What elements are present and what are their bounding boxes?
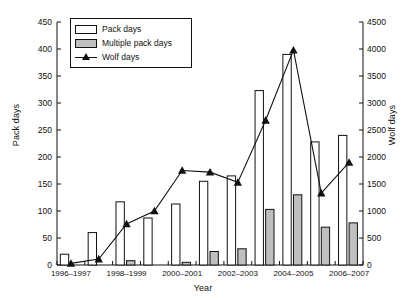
bar-pack-days xyxy=(227,176,235,265)
x-axis-tick-label: 2000–2001 xyxy=(153,269,211,278)
bar-pack-days xyxy=(199,181,207,265)
plot-area xyxy=(0,0,406,300)
bar-multiple-pack-days xyxy=(266,209,274,265)
y-axis-right-tick-label: 1000 xyxy=(367,206,397,216)
x-axis-tick-label: 2004–2005 xyxy=(264,269,322,278)
y-axis-right-tick-label: 0 xyxy=(367,260,397,270)
y-axis-right-tick-label: 3500 xyxy=(367,71,397,81)
y-axis-right-tick-label: 2000 xyxy=(367,152,397,162)
marker-wolf-days xyxy=(178,166,186,174)
legend-item-multiple-pack-days: Multiple pack days xyxy=(75,36,187,50)
bar-multiple-pack-days xyxy=(238,249,246,265)
bar-multiple-pack-days xyxy=(321,227,329,265)
y-axis-right-tick-label: 2500 xyxy=(367,125,397,135)
y-axis-left-tick-label: 100 xyxy=(24,206,52,216)
y-axis-left-tick-label: 250 xyxy=(24,125,52,135)
bar-multiple-pack-days xyxy=(293,195,301,265)
chart-figure: Pack days Wolf days Year Pack days Multi… xyxy=(0,0,406,300)
y-axis-right-tick-label: 4000 xyxy=(367,44,397,54)
y-axis-left-tick-label: 300 xyxy=(24,98,52,108)
bar-multiple-pack-days xyxy=(210,252,218,266)
x-axis-tick-label: 1998–1999 xyxy=(98,269,156,278)
x-axis-tick-label: 1996–1997 xyxy=(42,269,100,278)
bar-pack-days xyxy=(116,202,124,265)
y-axis-left-tick-label: 150 xyxy=(24,179,52,189)
bar-pack-days xyxy=(283,54,291,265)
bar-pack-days xyxy=(144,218,152,265)
bar-pack-days xyxy=(60,254,68,265)
line-triangle-marker-icon xyxy=(75,53,97,62)
marker-wolf-days xyxy=(150,207,158,215)
x-axis-tick-label: 2002–2003 xyxy=(209,269,267,278)
legend-label: Wolf days xyxy=(102,52,139,62)
bar-multiple-pack-days xyxy=(127,261,135,265)
bar-pack-days xyxy=(172,204,180,265)
marker-wolf-days xyxy=(289,46,297,54)
white-swatch-icon xyxy=(75,25,97,34)
legend-label: Pack days xyxy=(102,24,141,34)
chart-legend: Pack days Multiple pack days Wolf days xyxy=(70,18,192,68)
legend-item-pack-days: Pack days xyxy=(75,22,187,36)
y-axis-left-tick-label: 400 xyxy=(24,44,52,54)
bar-pack-days xyxy=(255,91,263,265)
legend-label: Multiple pack days xyxy=(102,38,172,48)
line-wolf-days xyxy=(71,50,349,263)
y-axis-left-tick-label: 350 xyxy=(24,71,52,81)
y-axis-left-tick-label: 50 xyxy=(24,233,52,243)
bar-pack-days xyxy=(339,135,347,265)
y-axis-left-tick-label: 200 xyxy=(24,152,52,162)
y-axis-left-tick-label: 0 xyxy=(24,260,52,270)
legend-item-wolf-days: Wolf days xyxy=(75,50,187,64)
y-axis-right-tick-label: 3000 xyxy=(367,98,397,108)
y-axis-left-tick-label: 450 xyxy=(24,17,52,27)
y-axis-right-tick-label: 1500 xyxy=(367,179,397,189)
x-axis-tick-label: 2006–2007 xyxy=(320,269,378,278)
y-axis-right-tick-label: 4500 xyxy=(367,17,397,27)
bar-multiple-pack-days xyxy=(182,262,190,265)
gray-swatch-icon xyxy=(75,39,97,48)
y-axis-right-tick-label: 500 xyxy=(367,233,397,243)
bar-multiple-pack-days xyxy=(349,223,357,265)
